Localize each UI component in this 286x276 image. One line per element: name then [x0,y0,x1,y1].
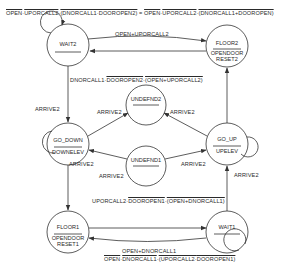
edge-go-down-undefnd2 [88,113,128,136]
label-part: DOOROPEN1) [197,256,236,262]
label-wait1-self-loop: OPEN·DNORCALL1·(UPORCALL2·DOOROPEN1) [104,256,235,263]
label-part: OPEN [104,256,120,262]
state-wait1-name: WAIT1 [207,224,247,231]
state-wait2-name: WAIT2 [48,41,88,48]
label-part: OPEN [6,10,22,16]
label-part: (UPORCALL2· [159,256,197,262]
label-wait1-to-go-up: UPORCALL2·DOOROPEN1·(OPEN+DNORCALL1) [92,198,225,205]
label-go-down-to-undefnd2: ARRIVE2 [97,109,122,116]
label-go-up-to-undefnd2: ARRIVE2 [170,109,195,116]
label-part: (OPEN+DNORCALL1) [167,198,225,204]
state-go-down-name: GO_DOWN [48,137,88,144]
label-part: (DNORCALL1·DOOROPEN2) [60,10,137,16]
state-go-up-output1: UPELEV [207,148,247,155]
label-wait1-to-floor1: OPEN+DNORCALL1 [122,248,176,255]
label-part: UPORCALL2· [92,198,128,204]
label-part: DNORCALL1· [70,77,106,83]
label-part: (DNORCALL1+DOOROPEN) [198,10,273,16]
edge-undefnd1-go-down [89,150,127,159]
state-undefnd1-name: UNDEFND1 [126,157,166,164]
label-wait2-to-floor2: OPEN+UPORCALL2 [115,31,169,38]
state-floor2-name: FLOOR2 [207,40,247,47]
label-wait2-self-loop: OPEN·UPORCALL2·(DNORCALL1·DOOROPEN2) = O… [6,10,274,17]
label-wait2-to-go-down: DNORCALL1·DOOROPEN2·(OPEN+UPORCALL2) [70,77,203,84]
state-floor2-output2: RESET2 [207,56,247,63]
state-go-down [47,123,89,165]
state-undefnd2-name: UNDEFND2 [126,96,166,103]
state-go-up [206,123,248,165]
label-part: DOOROPEN1 [128,198,165,204]
label-go-down-to-floor1: ARRIVE2 [69,161,94,168]
edge-undefnd1-go-up [165,150,206,159]
label-undefnd1-to-go-down: ARRIVE2 [99,173,124,180]
label-go-down-self-loop: ARRIVE2 [35,106,60,113]
label-undefnd1-to-go-up: ARRIVE2 [181,161,206,168]
label-part: DOOROPEN2 [106,77,143,83]
label-part: DNORCALL1 [122,256,156,262]
state-floor1-name: FLOOR1 [48,224,88,231]
state-go-down-output1: DOWNELEV [48,149,88,156]
edge-go-up-undefnd2 [164,113,207,136]
label-go-up-self-loop: ARRIVE2 [234,172,259,179]
label-part: UPORCALL2 [24,10,58,16]
state-go-up-name: GO_UP [207,136,247,143]
label-part: (OPEN+UPORCALL2) [145,77,203,83]
state-floor1-output2: RESET1 [48,241,88,248]
label-part: OPEN [144,10,160,16]
label-part: UPORCALL2 [162,10,196,16]
edge-wait1-floor1 [89,238,206,242]
